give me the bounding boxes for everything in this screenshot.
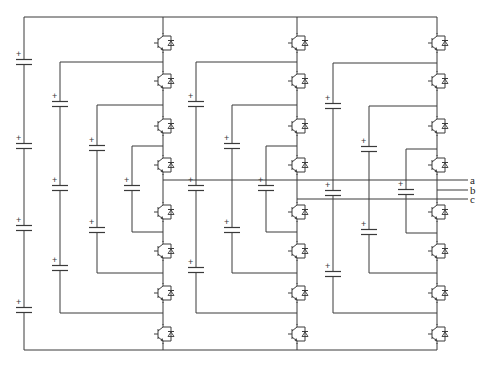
plus-sign: + — [124, 175, 129, 185]
igbt-icon — [154, 33, 174, 53]
plus-sign: + — [398, 179, 403, 189]
plus-sign: + — [224, 217, 229, 227]
igbt-icon — [154, 202, 174, 222]
plus-sign: + — [52, 255, 57, 265]
plus-sign: + — [16, 133, 21, 143]
igbt-icon — [288, 241, 308, 261]
igbt-icon — [154, 324, 174, 344]
igbt-icon — [154, 283, 174, 303]
igbt-icon — [288, 202, 308, 222]
plus-sign: + — [325, 180, 330, 190]
igbt-icon — [154, 155, 174, 175]
plus-sign: + — [361, 219, 366, 229]
plus-sign: + — [89, 217, 94, 227]
plus-sign: + — [52, 175, 57, 185]
igbt-icon — [428, 283, 448, 303]
output-labels-layer: abc — [470, 174, 476, 205]
igbt-icon — [154, 71, 174, 91]
plus-sign: + — [325, 261, 330, 271]
igbt-icon — [428, 241, 448, 261]
leg-b-flying-cap-loop — [333, 63, 437, 313]
igbt-icon — [428, 33, 448, 53]
plus-sign: + — [188, 175, 193, 185]
plus-sign: + — [16, 49, 21, 59]
igbt-icon — [428, 116, 448, 136]
plus-sign: + — [325, 93, 330, 103]
plus-sign: + — [89, 135, 94, 145]
igbt-icon — [428, 202, 448, 222]
plus-sign: + — [188, 257, 193, 267]
output-label-c: c — [470, 193, 475, 205]
igbt-icon — [288, 324, 308, 344]
igbt-icon — [428, 155, 448, 175]
leg-c-flying-cap-loop — [196, 62, 297, 313]
plus-sign: + — [16, 297, 21, 307]
igbt-icon — [154, 241, 174, 261]
igbt-icon — [288, 283, 308, 303]
igbt-icon — [428, 324, 448, 344]
plus-sign: + — [361, 136, 366, 146]
leg-a-flying-cap-loop — [60, 62, 163, 313]
plus-sign: + — [224, 133, 229, 143]
igbt-icon — [288, 71, 308, 91]
igbt-icon — [428, 71, 448, 91]
igbt-icon — [288, 116, 308, 136]
plus-sign: + — [52, 91, 57, 101]
igbt-icon — [154, 116, 174, 136]
igbt-icon — [288, 155, 308, 175]
igbt-icon — [288, 33, 308, 53]
circuit-diagram: ++++++++++++++++++++++ abc — [0, 0, 489, 370]
plus-sign: + — [258, 175, 263, 185]
plus-sign: + — [188, 91, 193, 101]
capacitors-layer: ++++++++++++++++++++++ — [16, 49, 414, 313]
plus-sign: + — [16, 215, 21, 225]
